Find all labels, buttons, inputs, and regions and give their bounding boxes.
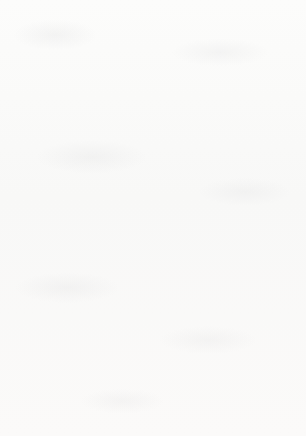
node-figure-label: FIGURE bbox=[147, 110, 189, 124]
bus-figure-children bbox=[49, 186, 254, 188]
node-axes[interactable]: AXES bbox=[15, 222, 85, 255]
node-plot-objects-label-line1: 2-D PLOT bbox=[115, 382, 176, 396]
node-axes-label: AXES bbox=[35, 232, 65, 246]
edge-bus-to-images bbox=[49, 324, 51, 378]
node-images[interactable]: IMAGES bbox=[15, 378, 87, 412]
node-other-graphics-label-line1: OTHER bbox=[221, 370, 293, 384]
edge-root-to-figure bbox=[167, 44, 169, 100]
edge-figure-to-bus bbox=[167, 133, 169, 186]
node-other-graphics-reference: See Table 6.5 bbox=[221, 416, 282, 428]
node-plot-objects-label-line2: OBJECTS bbox=[115, 396, 176, 410]
edge-bus-to-axes bbox=[49, 186, 51, 222]
node-figure[interactable]: FIGURE bbox=[133, 100, 203, 133]
node-images-label: IMAGES bbox=[29, 388, 74, 402]
node-other-graphics[interactable]: OTHER GRAPHICS OBJECTS See Table 6.5 bbox=[210, 360, 295, 430]
node-ui-objects-label: UI OBJECTS bbox=[223, 230, 291, 244]
edge-axes-to-bus bbox=[49, 255, 51, 326]
node-root[interactable]: ROOT bbox=[133, 11, 203, 44]
bus-axes-children bbox=[49, 324, 254, 326]
edge-bus-to-plot-objects bbox=[141, 324, 143, 378]
node-root-label: ROOT bbox=[152, 21, 184, 35]
edge-bus-to-ui-objects bbox=[252, 186, 254, 221]
diagram-canvas: ROOT FIGURE AXES UI OBJECTS See Fig. 6.4… bbox=[0, 0, 306, 436]
edge-bus-to-other-graphics bbox=[252, 324, 254, 360]
node-other-graphics-label-line3: OBJECTS bbox=[221, 398, 293, 412]
node-plot-objects[interactable]: 2-D PLOT OBJECTS bbox=[105, 378, 178, 412]
node-other-graphics-label-line2: GRAPHICS bbox=[221, 384, 293, 398]
node-ui-objects-reference: See Fig. 6.4 bbox=[223, 248, 278, 260]
node-ui-objects[interactable]: UI OBJECTS See Fig. 6.4 bbox=[212, 221, 293, 281]
